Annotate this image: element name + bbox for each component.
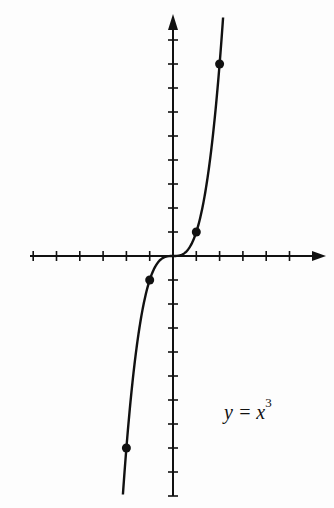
data-point	[192, 228, 201, 237]
cubic-graph: y = x3	[0, 0, 334, 508]
x-axis-arrow-icon	[312, 251, 326, 261]
data-point	[215, 60, 224, 69]
data-point	[145, 276, 154, 285]
equation-label: y = x3	[224, 399, 272, 424]
plot-area	[0, 0, 334, 508]
data-point	[122, 444, 131, 453]
equation-text: y = x	[224, 401, 265, 423]
equation-exponent: 3	[265, 395, 272, 410]
y-axis-arrow-icon	[168, 14, 178, 30]
